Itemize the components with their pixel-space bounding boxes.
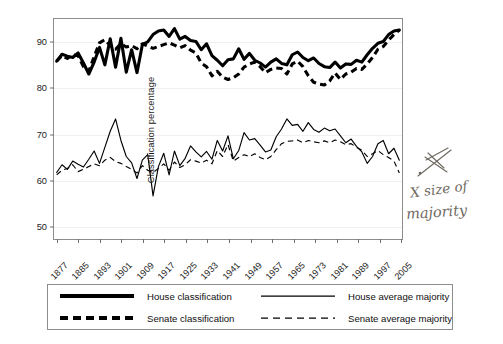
x-tickmark-2005 [401, 239, 402, 243]
x-tick-label-2005: 2005 [407, 246, 428, 267]
legend-label-senate-average-majority: Senate average majority [348, 313, 452, 324]
legend-swatch-house-average-majority [259, 291, 337, 301]
x-tickmark-1965 [294, 239, 295, 243]
legend-item-house-average-majority: House average majority [249, 291, 452, 302]
annotation-arrow-icon [404, 146, 503, 242]
x-tickmark-1997 [380, 239, 381, 243]
plot-area: 5060708090 18771885189319011909191719251… [53, 18, 403, 240]
x-tickmark-1957 [272, 239, 273, 243]
legend-item-house-classification: House classification [48, 291, 249, 302]
x-tickmark-1973 [315, 239, 316, 243]
handwritten-annotation: X size of majority [404, 146, 503, 242]
legend-item-senate-classification: Senate classification [48, 313, 249, 324]
chart-figure: 5060708090 18771885189319011909191719251… [0, 0, 503, 344]
annotation-line-2: majority [406, 202, 468, 222]
legend-label-house-average-majority: House average majority [348, 291, 449, 302]
legend-item-senate-average-majority: Senate average majority [249, 313, 452, 324]
legend-swatch-senate-average-majority [259, 313, 337, 323]
legend-swatch-house-classification [58, 291, 136, 301]
annotation-line-1: X size of [409, 178, 468, 201]
legend-label-senate-classification: Senate classification [147, 313, 234, 324]
legend-swatch-senate-classification [58, 313, 136, 323]
y-axis-title: Classification percentage [40, 19, 262, 241]
x-tickmark-1981 [337, 239, 338, 243]
legend: House classificationHouse average majori… [47, 284, 453, 330]
x-tickmark-1989 [358, 239, 359, 243]
legend-label-house-classification: House classification [147, 291, 232, 302]
